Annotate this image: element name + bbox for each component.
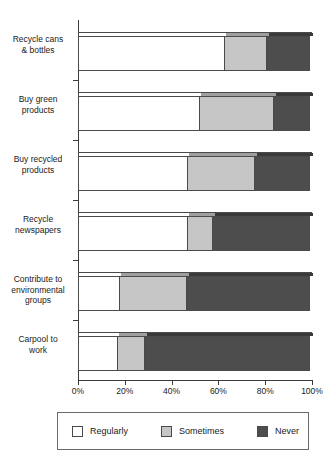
bar-row	[78, 216, 312, 251]
bar-segment-never	[254, 156, 310, 191]
x-axis-tick	[125, 380, 126, 385]
x-axis-tick	[312, 380, 313, 385]
legend-label: Regularly	[90, 426, 128, 436]
category-tick	[73, 80, 78, 81]
bar-segment-regularly	[78, 36, 225, 71]
category-label: Carpool to work	[2, 334, 74, 355]
bar-segment-never	[186, 276, 310, 311]
stacked-bar-chart: Recycle cans & bottlesBuy green products…	[0, 0, 335, 463]
x-axis-tick-label: 40%	[163, 386, 180, 396]
x-axis-tick-label: 80%	[257, 386, 274, 396]
regularly-swatch	[72, 426, 83, 437]
bar-segment-regularly	[78, 96, 200, 131]
x-axis-tick-label: 100%	[301, 386, 323, 396]
bar-segment-regularly	[78, 216, 188, 251]
bar-segment-never	[212, 216, 310, 251]
x-axis-tick	[172, 380, 173, 385]
bar-segment-never	[273, 96, 310, 131]
y-axis-line	[78, 20, 79, 380]
bar-row	[78, 96, 312, 131]
chart-legend: RegularlySometimesNever	[57, 412, 309, 450]
bar-segment-sometimes	[187, 156, 255, 191]
bar-segment-regularly	[78, 156, 188, 191]
category-tick	[73, 200, 78, 201]
category-label: Buy green products	[2, 94, 74, 115]
legend-item-sometimes[interactable]: Sometimes	[161, 426, 224, 437]
x-axis-line	[78, 380, 312, 381]
bar-segment-never	[266, 36, 310, 71]
legend-label: Never	[275, 426, 299, 436]
bar-segment-regularly	[78, 276, 120, 311]
x-axis-tick	[265, 380, 266, 385]
plot-area: 0%20%40%60%80%100%	[78, 20, 312, 380]
x-axis-tick-label: 0%	[72, 386, 84, 396]
bar-segment-sometimes	[199, 96, 274, 131]
x-axis-tick	[218, 380, 219, 385]
bar-row	[78, 156, 312, 191]
legend-item-never[interactable]: Never	[257, 426, 299, 437]
category-label: Contribute to environmental groups	[2, 274, 74, 306]
x-axis-tick-label: 20%	[116, 386, 133, 396]
sometimes-swatch	[161, 426, 172, 437]
bar-segment-sometimes	[187, 216, 213, 251]
category-tick	[73, 260, 78, 261]
x-axis-tick	[78, 380, 79, 385]
category-tick	[73, 320, 78, 321]
category-tick	[73, 140, 78, 141]
category-label: Buy recycled products	[2, 154, 74, 175]
legend-item-regularly[interactable]: Regularly	[72, 426, 128, 437]
bar-segment-sometimes	[224, 36, 266, 71]
category-label: Recycle newspapers	[2, 214, 74, 235]
never-swatch	[257, 426, 268, 437]
bar-segment-sometimes	[117, 336, 145, 371]
bar-segment-regularly	[78, 336, 118, 371]
bar-row	[78, 336, 312, 371]
x-axis-tick-label: 60%	[210, 386, 227, 396]
bar-segment-never	[144, 336, 310, 371]
legend-label: Sometimes	[179, 426, 224, 436]
bar-row	[78, 276, 312, 311]
category-label: Recycle cans & bottles	[2, 34, 74, 55]
bar-row	[78, 36, 312, 71]
bar-segment-sometimes	[119, 276, 187, 311]
